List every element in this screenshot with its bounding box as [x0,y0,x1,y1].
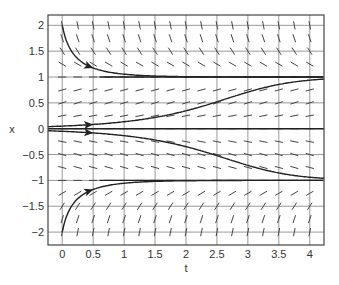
x-tick-label: 3 [245,248,251,260]
x-tick-label: 3.5 [271,248,286,260]
y-tick-label: 2 [38,19,44,31]
x-axis-label: t [184,262,187,274]
x-tick-label: 0.5 [86,248,101,260]
y-tick-label: 1 [38,71,44,83]
x-tick-label: 1.5 [147,248,162,260]
y-axis-label: x [9,123,15,135]
y-tick-label: 1.5 [29,45,44,57]
x-tick-label: 4 [307,248,313,260]
direction-field-chart: 00.511.522.533.54 21.510.50−0.5−1−1.5−2 … [0,0,339,285]
x-tick-label: 0 [59,248,65,260]
y-axis-ticks: 21.510.50−0.5−1−1.5−2 [22,19,44,238]
x-tick-label: 2 [183,248,189,260]
y-tick-label: −1.5 [22,200,44,212]
x-tick-label: 1 [121,248,127,260]
x-axis-ticks: 00.511.522.533.54 [59,248,313,260]
y-tick-label: 0.5 [29,97,44,109]
y-tick-label: −1 [31,174,44,186]
y-tick-label: −0.5 [22,149,44,161]
y-tick-label: 0 [38,123,44,135]
x-tick-label: 2.5 [209,248,224,260]
grid-lines [48,15,324,245]
y-tick-label: −2 [31,226,44,238]
